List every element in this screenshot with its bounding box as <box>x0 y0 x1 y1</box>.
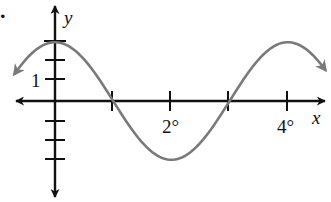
x-tick-label-2: 2° <box>162 116 179 137</box>
x-axis-label: x <box>311 107 321 128</box>
problem-marker: . <box>0 0 6 23</box>
y-tick-label-1: 1 <box>31 70 41 91</box>
x-tick-label-4: 4° <box>277 116 294 137</box>
y-axis-label: y <box>62 7 73 28</box>
graph: . y x 1 2° 4° <box>0 0 331 202</box>
